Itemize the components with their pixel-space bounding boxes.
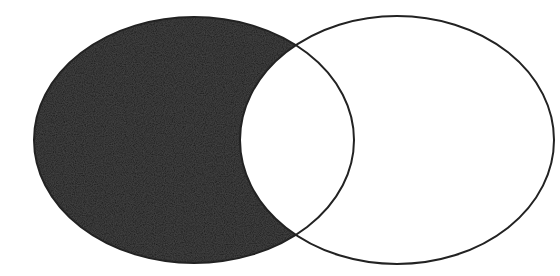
venn-diagram-svg	[0, 0, 560, 276]
venn-diagram	[0, 0, 560, 276]
set-a-shaded-region	[34, 17, 354, 263]
